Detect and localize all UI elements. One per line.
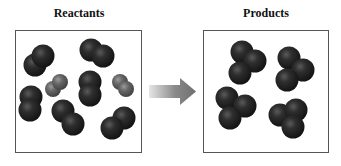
- dark-atom: [101, 117, 124, 140]
- dark-atom: [282, 116, 305, 139]
- dark-atom: [276, 69, 299, 92]
- dark-atom: [32, 45, 55, 68]
- reaction-arrow: [149, 78, 196, 105]
- gray-atom: [118, 81, 134, 97]
- reaction-diagram: [0, 0, 341, 166]
- dark-atom: [219, 107, 242, 130]
- dark-atom: [79, 84, 102, 107]
- reactant-molecule-6: [19, 86, 43, 122]
- gray-atom: [52, 74, 68, 90]
- reactant-molecule-4: [79, 71, 102, 107]
- dark-atom: [92, 45, 115, 68]
- dark-atom: [19, 99, 42, 122]
- dark-atom: [62, 113, 85, 136]
- arrow-icon: [149, 78, 196, 105]
- dark-atom: [229, 62, 252, 85]
